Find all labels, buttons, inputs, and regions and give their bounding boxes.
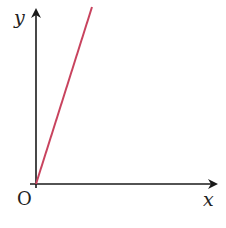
origin-label: O: [17, 188, 32, 209]
y-axis-label: y: [13, 6, 25, 28]
x-axis-label: x: [203, 188, 214, 210]
proportional-line: [36, 7, 92, 184]
graph: y x O: [0, 0, 226, 228]
